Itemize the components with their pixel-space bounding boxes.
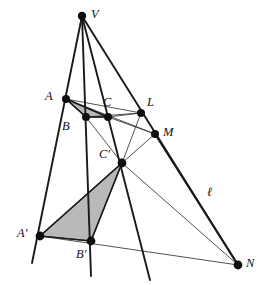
point-c (104, 113, 112, 121)
label-point-a: A (45, 90, 53, 103)
line-l-cp (122, 113, 141, 163)
point-a (62, 95, 70, 103)
line-cp-n (122, 163, 238, 265)
point-n (234, 261, 243, 270)
geometry-figure: V A B C L M C′ A′ B′ N ℓ (0, 0, 267, 285)
line-m-cp (122, 134, 155, 163)
thick-lines (32, 16, 238, 280)
label-point-m: M (163, 126, 173, 139)
label-point-c-prime: C′ (99, 148, 110, 161)
label-point-n: N (246, 257, 254, 270)
label-line-ell: ℓ (207, 186, 212, 199)
label-point-a-prime: A′ (17, 227, 27, 240)
label-point-v: V (91, 8, 99, 21)
point-v (78, 12, 86, 20)
point-a-prime (36, 232, 45, 241)
point-b-prime (87, 237, 96, 246)
label-point-b-prime: B′ (76, 248, 86, 261)
point-l (137, 109, 145, 117)
label-point-l: L (147, 96, 154, 109)
label-point-b: B (62, 120, 70, 133)
geometry-canvas (0, 0, 267, 285)
point-b (82, 113, 90, 121)
point-c-prime (118, 159, 127, 168)
point-m (151, 130, 159, 138)
label-point-c: C (103, 96, 111, 109)
line-m-n (155, 134, 238, 265)
